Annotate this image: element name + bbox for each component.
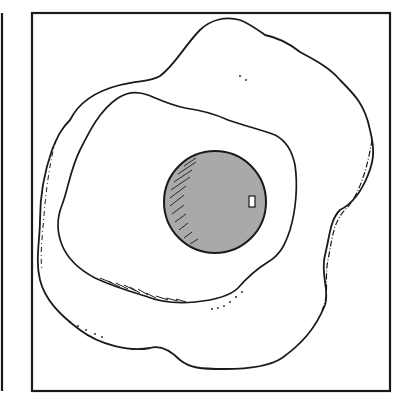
fried-egg-illustration (0, 0, 409, 410)
yolk-highlight (249, 196, 255, 207)
